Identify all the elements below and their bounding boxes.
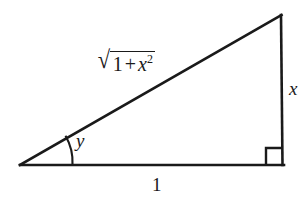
angle-label: y (76, 131, 84, 150)
hypotenuse-label: √1+x2 (97, 50, 155, 74)
angle-arc-marker (66, 136, 73, 165)
right-angle-square-marker (266, 148, 283, 165)
triangle-hypotenuse-side (20, 15, 282, 165)
vertical-leg-label: x (289, 79, 297, 98)
radical-sign-icon: √ (98, 50, 110, 71)
base-label: 1 (152, 175, 162, 194)
radicand-first-term: 1 (113, 53, 123, 75)
plus-operator: + (123, 53, 138, 75)
radicand-exponent: 2 (147, 52, 153, 66)
right-triangle-figure: √1+x2 x y 1 (0, 0, 307, 206)
triangle-vertical-leg-side (281, 15, 283, 165)
radicand-variable: x (138, 53, 147, 75)
radicand-group: 1+x2 (110, 51, 155, 74)
